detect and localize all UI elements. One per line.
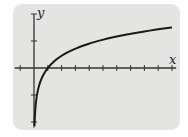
log-chart: x y [0, 0, 188, 137]
log-curve [34, 28, 172, 127]
x-axis-label: x [169, 52, 177, 67]
y-axis-label: y [36, 5, 45, 20]
